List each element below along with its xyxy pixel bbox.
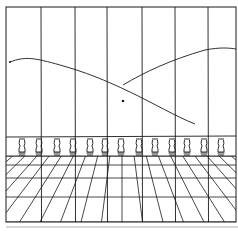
ascending-curve	[123, 48, 236, 85]
floor-ray	[20, 156, 62, 222]
floor-ray	[61, 156, 86, 222]
floor-ray	[0, 156, 1, 222]
frame	[6, 7, 236, 222]
baluster	[70, 139, 77, 155]
baluster	[218, 139, 225, 155]
rail	[6, 136, 236, 137]
curve-start-dot	[9, 61, 11, 63]
curved-lines	[9, 48, 236, 124]
frame-border	[6, 7, 236, 222]
floor-ray	[231, 156, 238, 222]
baluster	[136, 139, 143, 155]
floor-ray	[0, 156, 25, 222]
baluster	[169, 139, 176, 155]
balustrade	[6, 136, 236, 156]
floor-ray	[158, 156, 183, 222]
floor-ray	[195, 156, 238, 222]
baluster	[184, 139, 191, 155]
vertical-line	[107, 7, 108, 222]
floor-ray	[146, 156, 163, 222]
baluster	[102, 139, 109, 155]
baluster	[152, 139, 159, 155]
baluster	[201, 139, 208, 155]
baluster	[54, 139, 61, 155]
floor-ray	[183, 156, 225, 222]
baluster	[36, 139, 43, 155]
floor-ray	[207, 156, 238, 222]
floor-ray	[81, 156, 98, 222]
tiled-floor	[0, 156, 238, 222]
floor-ray	[134, 156, 142, 222]
vertical-line	[75, 7, 76, 222]
baluster	[118, 139, 125, 155]
floor-ray	[219, 156, 238, 222]
dot-marker	[122, 100, 125, 103]
vertical-line	[142, 7, 143, 222]
vertical-line	[208, 7, 209, 222]
vertical-line	[41, 7, 42, 222]
floor-ray	[102, 156, 110, 222]
vertical-lines	[41, 7, 209, 222]
descending-curve	[10, 58, 195, 124]
perspective-drawing	[0, 0, 238, 231]
baluster	[19, 139, 26, 155]
baluster	[87, 139, 94, 155]
floor-ray	[40, 156, 73, 222]
center-dot	[122, 100, 125, 103]
